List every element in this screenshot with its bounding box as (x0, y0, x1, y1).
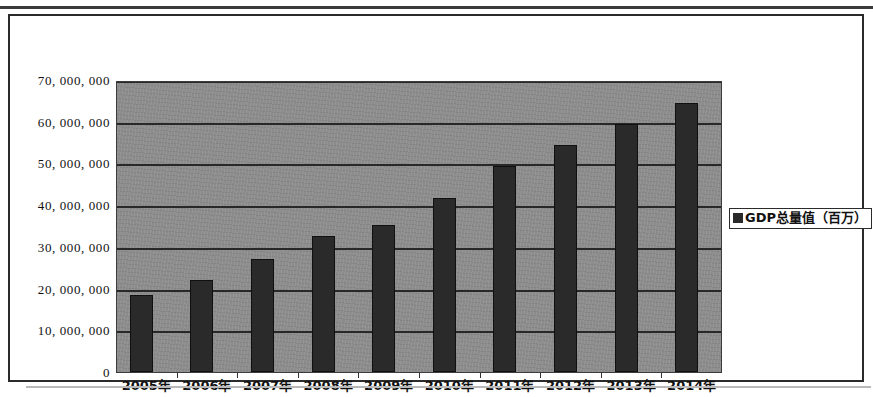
bar (433, 198, 456, 372)
y-axis-tick-label: 10, 000, 000 (14, 324, 110, 338)
chart-legend: GDP总量值（百万） (729, 208, 872, 229)
bar (312, 236, 335, 372)
bar (493, 166, 516, 372)
plot-area (116, 81, 722, 373)
y-axis-tick-label: 40, 000, 000 (14, 199, 110, 213)
bar (251, 259, 274, 372)
bar (130, 295, 153, 372)
page-bottom-rule (26, 386, 871, 388)
bar (372, 225, 395, 372)
y-axis-tick-label: 70, 000, 000 (14, 74, 110, 88)
y-axis-tick-label: 50, 000, 000 (14, 157, 110, 171)
bar (190, 280, 213, 372)
y-axis-tick-labels: 010, 000, 00020, 000, 00030, 000, 00040,… (10, 16, 110, 397)
series-color-swatch (733, 213, 743, 223)
page-top-rule (0, 6, 873, 9)
y-axis-tick-label: 20, 000, 000 (14, 283, 110, 297)
y-axis-tick-label: 30, 000, 000 (14, 241, 110, 255)
bar (554, 145, 577, 372)
legend-item-label: GDP总量值（百万） (745, 211, 867, 225)
y-axis-tick-label: 0 (14, 366, 110, 380)
bar (615, 124, 638, 372)
bar (675, 103, 698, 372)
y-axis-tick-label: 60, 000, 000 (14, 116, 110, 130)
chart-frame: 010, 000, 00020, 000, 00030, 000, 00040,… (8, 14, 864, 382)
gridline (117, 81, 721, 83)
